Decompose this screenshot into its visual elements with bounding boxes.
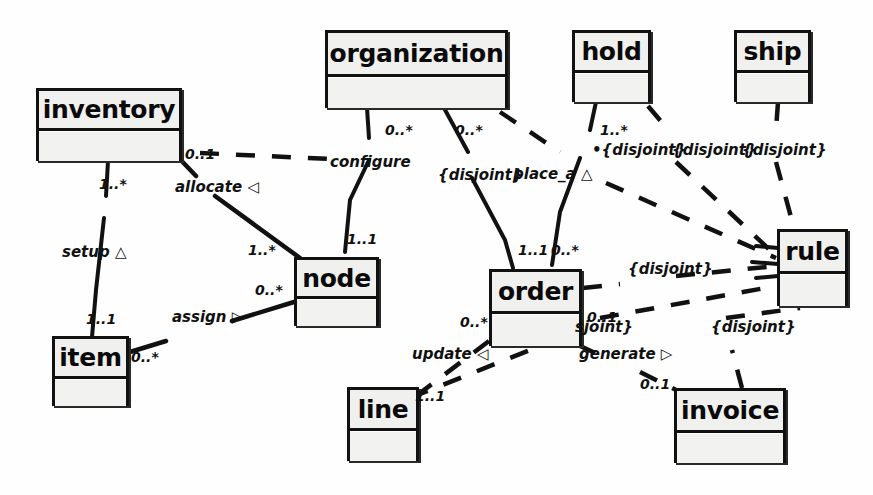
edge-organization-rule	[500, 112, 776, 258]
multiplicity-line-update: 1..1	[415, 389, 445, 403]
class-name-label: hold	[581, 37, 641, 66]
class-box-order[interactable]: order	[489, 269, 582, 346]
multiplicity-hold-place: 1..*	[600, 123, 628, 137]
class-attributes-row	[737, 73, 808, 102]
multiplicity-order-update: 0..*	[460, 315, 488, 329]
class-name-label: node	[302, 264, 371, 293]
association-label-place-a: place_a △	[513, 167, 592, 182]
multiplicity-node-assign: 0..*	[255, 283, 283, 297]
class-name-label: invoice	[681, 396, 779, 425]
class-attributes-row	[297, 299, 376, 326]
class-name-label: line	[358, 395, 409, 424]
edge-hold-order-place	[552, 102, 596, 265]
multiplicity-organization-configure: 0..*	[385, 123, 413, 137]
class-attributes-row	[328, 77, 505, 108]
class-box-line[interactable]: line	[347, 387, 419, 461]
constraint-order-rule: {disjoint}	[628, 262, 713, 277]
class-box-inventory[interactable]: inventory	[36, 88, 182, 161]
constraint-line-rule: sjoint}	[575, 320, 633, 335]
multiplicity-node-allocate: 1..*	[248, 243, 276, 257]
association-label-generate: generate ▷	[579, 347, 672, 362]
class-name-label: inventory	[43, 95, 175, 124]
class-name-label: organization	[330, 39, 504, 68]
association-label-assign: assign ▷	[172, 310, 243, 325]
constraint-ship-rule: {disjoint}	[742, 143, 827, 158]
class-name-row: item	[55, 339, 126, 379]
class-name-row: organization	[328, 33, 505, 77]
association-label-configure: configure	[330, 155, 411, 170]
multiplicity-item-setup: 1..1	[86, 312, 116, 326]
class-box-item[interactable]: item	[52, 336, 129, 406]
uml-class-diagram: inventory organization hold ship node or…	[0, 0, 873, 495]
class-attributes-row	[39, 131, 179, 161]
class-box-hold[interactable]: hold	[572, 30, 651, 102]
multiplicity-inventory-setup: 1..*	[99, 177, 127, 191]
class-box-invoice[interactable]: invoice	[674, 388, 786, 463]
association-label-update: update ◁	[412, 347, 488, 362]
class-name-row: ship	[737, 33, 808, 73]
multiplicity-inventory-allocate: 0..1	[185, 147, 215, 161]
class-name-label: rule	[785, 237, 839, 266]
edge-inventory-node-allocate	[176, 155, 300, 258]
multiplicity-invoice-generate: 0..1	[640, 377, 670, 391]
class-name-row: rule	[780, 232, 845, 274]
rule-incoming-ticks	[752, 246, 778, 278]
class-name-label: ship	[744, 37, 802, 66]
edge-ship-rule	[776, 102, 794, 228]
class-name-row: line	[350, 390, 416, 431]
class-box-rule[interactable]: rule	[777, 229, 848, 306]
association-label-setup: setup △	[62, 245, 126, 260]
class-attributes-row	[350, 431, 416, 461]
edge-line-rule	[410, 286, 776, 398]
class-name-label: item	[59, 343, 121, 372]
class-attributes-row	[780, 274, 845, 306]
class-name-row: inventory	[39, 91, 179, 131]
multiplicity-order-place: 1..1	[518, 243, 548, 257]
class-box-ship[interactable]: ship	[734, 30, 811, 102]
constraint-invoice-rule: {disjoint}	[711, 320, 796, 335]
class-name-row: invoice	[677, 391, 783, 433]
class-name-label: order	[498, 277, 573, 306]
class-attributes-row	[677, 433, 783, 463]
multiplicity-order-rule: 0..*	[551, 243, 579, 257]
class-attributes-row	[492, 314, 579, 346]
class-name-row: order	[492, 272, 579, 314]
multiplicity-item-assign: 0..*	[131, 350, 159, 364]
multiplicity-node-configure: 1..1	[347, 232, 377, 246]
constraint-organization-node: {disjoint}	[438, 168, 523, 183]
class-name-row: node	[297, 260, 376, 299]
multiplicity-organization-place: 0..*	[455, 123, 483, 137]
class-attributes-row	[55, 379, 126, 406]
class-attributes-row	[575, 73, 648, 102]
class-box-node[interactable]: node	[294, 257, 379, 326]
association-label-allocate: allocate ◁	[175, 180, 259, 195]
class-box-organization[interactable]: organization	[325, 30, 508, 108]
edge-inventory-organization-configure	[200, 153, 330, 159]
class-name-row: hold	[575, 33, 648, 73]
